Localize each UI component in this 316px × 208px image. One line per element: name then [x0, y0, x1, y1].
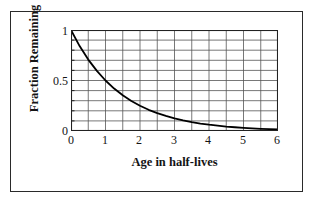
- x-axis-title: Age in half-lives: [71, 155, 278, 170]
- x-tick-label: 0: [60, 133, 82, 148]
- x-tick-label: 3: [163, 133, 185, 148]
- decay-curve-figure: Fraction Remaining 1 0.5 0 0 1 2 3 4 5 6…: [0, 0, 316, 208]
- x-tick-label: 1: [94, 133, 116, 148]
- x-tick-label: 2: [128, 133, 150, 148]
- plot-area: [71, 30, 278, 131]
- decay-curve-plot: [71, 30, 278, 131]
- x-tick-label: 6: [266, 133, 288, 148]
- x-tick-label: 5: [232, 133, 254, 148]
- grid-lines: [71, 30, 278, 131]
- x-tick-label: 4: [197, 133, 219, 148]
